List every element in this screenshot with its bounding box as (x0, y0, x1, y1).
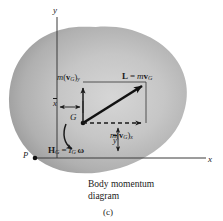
L-subscript-g: G (148, 75, 152, 81)
momentum-y-component-label: m(vG)y (57, 73, 80, 83)
mvgy-component-y: y (77, 76, 80, 82)
y-axis-label: y (53, 6, 57, 15)
mvgx-component-x: x (130, 134, 133, 140)
angular-momentum-equation-label: HG=IGω (48, 146, 84, 155)
L-equals: = (130, 71, 135, 81)
x-bar-dimension-label: x (53, 98, 57, 108)
momentum-x-component-label: m(vG)x (110, 131, 133, 141)
x-bar-glyph: x (53, 98, 57, 108)
figure-part-label: (c) (103, 208, 113, 217)
body-momentum-diagram-figure: y x P G x y m(vG)y m(vG)x L=mvG HG=IGω B… (0, 0, 223, 221)
center-of-mass-label: G (70, 113, 77, 122)
x-axis-label: x (208, 155, 212, 164)
omega-symbol: ω (77, 145, 84, 155)
caption-line-1: Body momentum (88, 180, 154, 190)
H-symbol: H (48, 145, 55, 155)
rigid-body-blob (9, 27, 187, 174)
H-equals: = (61, 145, 66, 155)
origin-point-label: P (23, 151, 28, 160)
caption-line-2: diagram (88, 192, 119, 202)
I-subscript-g: G (72, 149, 76, 155)
origin-point-marker (33, 156, 38, 161)
H-subscript-g: G (55, 149, 59, 155)
linear-momentum-equation-label: L=mvG (122, 72, 153, 81)
L-symbol: L (122, 71, 128, 81)
